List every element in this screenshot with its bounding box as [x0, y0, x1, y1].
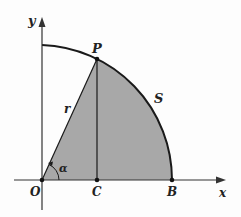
angle-label: α: [59, 162, 68, 175]
point-c-dot: [95, 178, 100, 183]
x-axis-arrow-icon: [216, 177, 226, 184]
origin-label: O: [30, 185, 41, 199]
radius-label: r: [64, 102, 72, 116]
sector-diagram: y x O C B P r S α: [0, 0, 241, 217]
point-p-label: P: [91, 41, 103, 56]
point-b-dot: [170, 178, 175, 183]
diagram-canvas: y x O C B P r S α: [0, 0, 241, 217]
point-p-dot: [95, 57, 100, 62]
point-b-label: B: [166, 185, 177, 199]
x-axis-label: x: [218, 186, 227, 200]
y-axis-arrow-icon: [39, 17, 46, 27]
y-axis-label: y: [27, 13, 37, 28]
point-c-label: C: [92, 185, 102, 199]
point-o-dot: [40, 178, 45, 183]
arc-label: S: [154, 91, 163, 106]
